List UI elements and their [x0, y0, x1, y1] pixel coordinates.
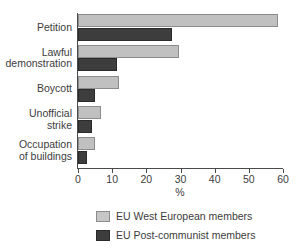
category-label-petition: Petition — [0, 22, 72, 34]
legend-label-post-communist: EU Post-communist members — [116, 229, 255, 241]
bar-post-communist-4 — [78, 151, 87, 164]
bar-west-european-3 — [78, 106, 101, 119]
x-tick-label-30: 30 — [166, 173, 196, 185]
category-label-unofficial-strike: Unofficial strike — [0, 108, 72, 131]
category-label-lawful-demonstration: Lawful demonstration — [0, 47, 72, 70]
bar-post-communist-1 — [78, 58, 117, 71]
legend-item-post-communist: EU Post-communist members — [96, 227, 255, 243]
bar-post-communist-0 — [78, 28, 172, 41]
legend-swatch-west-icon — [96, 211, 110, 222]
x-axis-title: % — [77, 186, 283, 198]
plot-area: Petition Lawful demonstration Boycott Un… — [0, 0, 302, 175]
x-tick-label-60: 60 — [268, 173, 298, 185]
category-label-boycott: Boycott — [0, 83, 72, 95]
x-tick-label-0: 0 — [63, 173, 93, 185]
x-tick-label-10: 10 — [97, 173, 127, 185]
bar-west-european-0 — [78, 14, 278, 27]
x-tick-label-50: 50 — [234, 173, 264, 185]
bar-west-european-4 — [78, 137, 95, 150]
bar-west-european-1 — [78, 45, 179, 58]
category-axis-labels: Petition Lawful demonstration Boycott Un… — [0, 14, 74, 168]
bar-west-european-2 — [78, 76, 119, 89]
legend-label-west: EU West European members — [116, 210, 252, 222]
chart-legend: EU West European members EU Post-communi… — [0, 206, 302, 250]
x-tick-label-40: 40 — [200, 173, 230, 185]
legend-item-west: EU West European members — [96, 208, 252, 224]
x-tick-label-20: 20 — [131, 173, 161, 185]
legend-swatch-post-communist-icon — [96, 230, 110, 241]
category-label-occupation-of-buildings: Occupation of buildings — [0, 139, 72, 162]
bar-post-communist-3 — [78, 120, 92, 133]
bar-series-group — [78, 14, 288, 168]
bar-post-communist-2 — [78, 89, 95, 102]
bar-chart: Petition Lawful demonstration Boycott Un… — [0, 0, 302, 250]
